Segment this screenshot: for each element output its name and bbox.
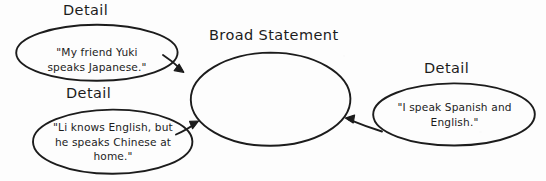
detail-text-bottom-left-line-1: "Li knows English, but [40, 120, 186, 135]
detail-text-top-left: "My friend Yuki speaks Japanese." [26, 45, 168, 74]
detail-text-bottom-left-line-3: home." [40, 149, 186, 164]
detail-text-right-line-2: English." [383, 115, 526, 130]
detail-text-right: "I speak Spanish and English." [383, 100, 526, 129]
detail-text-top-left-line-2: speaks Japanese." [26, 60, 168, 75]
broad-statement-ellipse[interactable] [191, 53, 351, 146]
detail-heading-top-left: Detail [63, 2, 108, 18]
detail-text-bottom-left-line-2: he speaks Chinese at [40, 135, 186, 150]
detail-heading-right: Detail [424, 60, 469, 76]
detail-text-right-line-1: "I speak Spanish and [383, 100, 526, 115]
broad-statement-heading: Broad Statement [209, 27, 338, 43]
detail-text-top-left-line-1: "My friend Yuki [26, 45, 168, 60]
detail-heading-bottom-left: Detail [66, 85, 111, 101]
concept-map-diagram: Detail Detail Detail Broad Statement "My… [0, 0, 546, 181]
detail-text-bottom-left: "Li knows English, but he speaks Chinese… [40, 120, 186, 164]
